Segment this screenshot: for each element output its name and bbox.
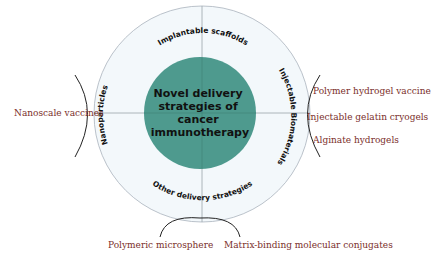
branch-right-1: Injectable gelatin cryogels [307, 112, 429, 122]
delivery-strategies-diagram: Novel delivery strategies of cancer immu… [0, 0, 435, 262]
branch-right-2: Alginate hydrogels [312, 135, 399, 145]
branch-bottom-0: Polymeric microsphere [108, 240, 213, 250]
branch-bottom-1: Matrix-binding molecular conjugates [224, 240, 393, 250]
branch-right-0: Polymer hydrogel vaccine [313, 86, 431, 96]
branch-left-0: Nanoscale vaccines [14, 108, 104, 118]
